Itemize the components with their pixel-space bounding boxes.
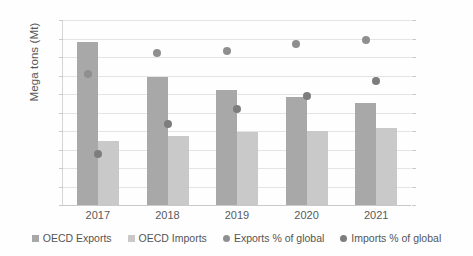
y2-tick-mark — [412, 187, 416, 188]
bar-oecd-exports[interactable] — [77, 42, 98, 205]
x-tick-label: 2019 — [202, 209, 272, 221]
y2-tick-mark — [412, 94, 416, 95]
chart-legend: OECD ExportsOECD ImportsExports % of glo… — [0, 232, 473, 244]
bar-group — [202, 20, 272, 205]
y2-tick-mark — [412, 57, 416, 58]
legend-label: OECD Exports — [43, 232, 112, 244]
legend-label: OECD Imports — [139, 232, 207, 244]
legend-circle-icon — [340, 235, 347, 242]
x-tick-label: 2021 — [341, 209, 411, 221]
legend-item[interactable]: OECD Imports — [128, 232, 207, 244]
chart-container: Mega tons (Mt) 012345678910 0%10%20%30%4… — [0, 0, 473, 256]
y-tick-mark — [59, 205, 63, 206]
bar-group — [63, 20, 133, 205]
bar-oecd-imports[interactable] — [307, 131, 328, 205]
bar-oecd-imports[interactable] — [168, 136, 189, 205]
bar-group — [341, 20, 411, 205]
y2-tick-mark — [412, 20, 416, 21]
legend-label: Exports % of global — [234, 232, 324, 244]
legend-item[interactable]: OECD Exports — [32, 232, 112, 244]
y2-tick-mark — [412, 150, 416, 151]
legend-circle-icon — [223, 235, 230, 242]
bar-oecd-exports[interactable] — [286, 97, 307, 205]
point-imports-pct-of-global[interactable] — [233, 105, 241, 113]
gridline — [63, 205, 411, 206]
point-imports-pct-of-global[interactable] — [372, 77, 380, 85]
point-imports-pct-of-global[interactable] — [303, 92, 311, 100]
legend-square-icon — [128, 235, 135, 242]
bar-oecd-exports[interactable] — [355, 103, 376, 205]
point-exports-pct-of-global[interactable] — [223, 47, 231, 55]
bar-oecd-imports[interactable] — [237, 132, 258, 205]
y-axis-title: Mega tons (Mt) — [28, 0, 40, 142]
x-tick-label: 2018 — [132, 209, 202, 221]
y2-tick-mark — [412, 168, 416, 169]
point-exports-pct-of-global[interactable] — [292, 40, 300, 48]
legend-label: Imports % of global — [351, 232, 441, 244]
point-exports-pct-of-global[interactable] — [153, 49, 161, 57]
y2-tick-mark — [412, 113, 416, 114]
bar-group — [272, 20, 342, 205]
bar-group — [133, 20, 203, 205]
y2-tick-mark — [412, 76, 416, 77]
bar-oecd-exports[interactable] — [147, 77, 168, 205]
y2-tick-mark — [412, 131, 416, 132]
bar-oecd-imports[interactable] — [376, 128, 397, 205]
plot-area: 012345678910 0%10%20%30%40%50%60%70%80%9… — [62, 20, 411, 205]
point-imports-pct-of-global[interactable] — [164, 120, 172, 128]
y2-tick-mark — [412, 205, 416, 206]
y2-tick-mark — [412, 39, 416, 40]
x-tick-label: 2017 — [63, 209, 133, 221]
legend-item[interactable]: Imports % of global — [340, 232, 441, 244]
legend-item[interactable]: Exports % of global — [223, 232, 324, 244]
point-exports-pct-of-global[interactable] — [362, 36, 370, 44]
point-exports-pct-of-global[interactable] — [84, 70, 92, 78]
x-tick-label: 2020 — [272, 209, 342, 221]
legend-square-icon — [32, 235, 39, 242]
